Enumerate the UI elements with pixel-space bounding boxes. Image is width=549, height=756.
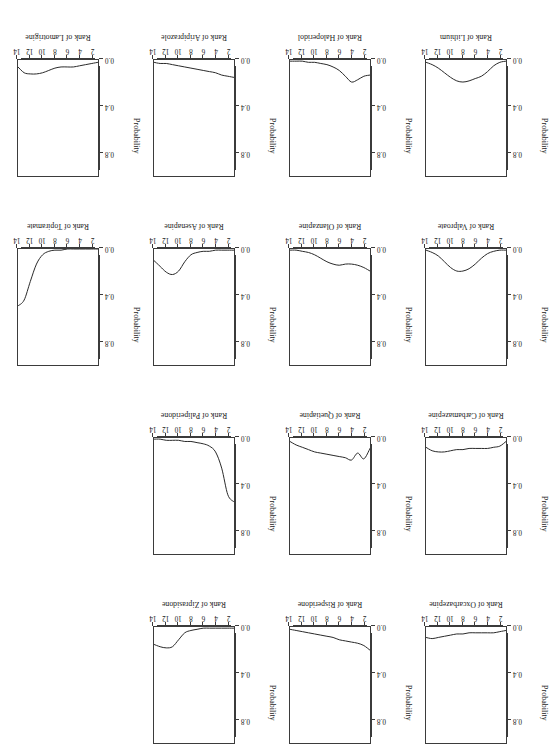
x-tick-label: 10 bbox=[175, 614, 182, 621]
x-tick-label: 12 bbox=[434, 614, 441, 621]
x-axis-line bbox=[429, 625, 503, 626]
x-tick-label: 14 bbox=[285, 47, 292, 54]
x-tick-label: 4 bbox=[214, 47, 218, 54]
x-tick-label: 12 bbox=[434, 236, 441, 243]
probability-curve-svg bbox=[290, 60, 370, 176]
x-axis-title: Rank of Aripiprazole bbox=[153, 33, 235, 42]
x-tick-label: 4 bbox=[214, 236, 218, 243]
x-tick bbox=[202, 244, 203, 248]
x-tick-label: 6 bbox=[202, 47, 206, 54]
x-tick-label: 12 bbox=[298, 47, 305, 54]
plot-area bbox=[289, 248, 371, 366]
x-axis: 2468101214 bbox=[425, 427, 507, 437]
x-tick-label: 4 bbox=[350, 236, 354, 243]
x-tick-label: 2 bbox=[363, 425, 367, 432]
x-tick bbox=[54, 55, 55, 59]
x-tick-label: 12 bbox=[434, 47, 441, 54]
y-tick-label: 0.4 bbox=[105, 292, 114, 299]
y-tick-label: 0.4 bbox=[513, 292, 522, 299]
panel-aripiprazole: 0.00.40.8Probability2468101214Rank of Ar… bbox=[137, 0, 273, 189]
y-tick bbox=[371, 719, 375, 720]
y-axis-line bbox=[99, 255, 100, 359]
x-tick bbox=[326, 622, 327, 626]
x-tick bbox=[449, 244, 450, 248]
y-axis-line bbox=[235, 66, 236, 170]
x-tick-label: 6 bbox=[474, 47, 478, 54]
x-tick-label: 4 bbox=[486, 236, 490, 243]
x-tick bbox=[351, 244, 352, 248]
y-tick bbox=[371, 483, 375, 484]
x-tick-label: 6 bbox=[338, 47, 342, 54]
y-tick bbox=[507, 105, 511, 106]
y-tick-label: 0.4 bbox=[377, 103, 386, 110]
panel-risperidone: 0.00.40.8Probability2468101214Rank of Ri… bbox=[273, 567, 409, 756]
y-tick bbox=[371, 247, 375, 248]
y-tick bbox=[507, 294, 511, 295]
x-axis-title: Rank of Carbamazepine bbox=[425, 411, 507, 420]
y-axis: 0.00.40.8 bbox=[235, 626, 243, 744]
x-tick-label: 10 bbox=[175, 47, 182, 54]
y-tick-label: 0.4 bbox=[513, 670, 522, 677]
probability-curve bbox=[154, 250, 234, 274]
x-tick-label: 2 bbox=[227, 614, 231, 621]
y-axis-title: Probability bbox=[404, 307, 413, 343]
y-tick bbox=[371, 672, 375, 673]
y-tick bbox=[99, 58, 103, 59]
x-tick-label: 6 bbox=[474, 614, 478, 621]
y-axis-title: Probability bbox=[404, 496, 413, 532]
y-axis-line bbox=[99, 66, 100, 170]
y-tick bbox=[507, 530, 511, 531]
x-tick-label: 2 bbox=[91, 47, 95, 54]
x-tick bbox=[500, 55, 501, 59]
x-axis-title: Rank of Lamotrigine bbox=[17, 33, 99, 42]
x-tick-label: 6 bbox=[474, 425, 478, 432]
x-tick-label: 14 bbox=[421, 236, 428, 243]
y-tick-label: 0.4 bbox=[105, 103, 114, 110]
x-tick bbox=[66, 244, 67, 248]
x-tick bbox=[79, 244, 80, 248]
y-tick-label: 0.8 bbox=[513, 717, 522, 724]
x-axis-line bbox=[429, 436, 503, 437]
y-tick bbox=[507, 341, 511, 342]
y-axis-title: Probability bbox=[268, 685, 277, 721]
y-tick-label: 0.8 bbox=[513, 150, 522, 157]
x-tick-label: 4 bbox=[350, 425, 354, 432]
x-tick bbox=[202, 55, 203, 59]
y-tick-label: 0.0 bbox=[377, 55, 386, 62]
x-tick bbox=[437, 622, 438, 626]
y-tick-label: 0.8 bbox=[241, 150, 250, 157]
x-tick-label: 14 bbox=[149, 614, 156, 621]
x-axis-line bbox=[293, 247, 367, 248]
probability-curve-svg bbox=[154, 249, 234, 365]
x-tick bbox=[313, 622, 314, 626]
x-axis: 2468101214 bbox=[153, 238, 235, 248]
x-tick-label: 8 bbox=[53, 47, 57, 54]
x-tick-label: 10 bbox=[447, 614, 454, 621]
probability-curve bbox=[426, 441, 506, 452]
probability-curve-svg bbox=[426, 438, 506, 554]
x-tick bbox=[152, 244, 153, 248]
y-tick bbox=[99, 294, 103, 295]
x-tick bbox=[487, 244, 488, 248]
x-tick bbox=[487, 622, 488, 626]
x-tick bbox=[437, 433, 438, 437]
x-tick-label: 8 bbox=[189, 47, 193, 54]
x-axis-title: Rank of Risperidone bbox=[289, 600, 371, 609]
x-axis-line bbox=[21, 247, 95, 248]
x-tick-label: 2 bbox=[499, 614, 503, 621]
y-axis-line bbox=[235, 633, 236, 737]
x-tick bbox=[338, 55, 339, 59]
y-tick bbox=[371, 105, 375, 106]
y-tick-label: 0.4 bbox=[241, 103, 250, 110]
y-tick bbox=[235, 341, 239, 342]
x-tick bbox=[326, 55, 327, 59]
x-tick-label: 10 bbox=[39, 236, 46, 243]
probability-curve-svg bbox=[154, 60, 234, 176]
x-tick-label: 4 bbox=[486, 47, 490, 54]
x-tick bbox=[92, 244, 93, 248]
y-axis-title: Probability bbox=[404, 685, 413, 721]
x-tick bbox=[313, 433, 314, 437]
x-tick bbox=[92, 55, 93, 59]
x-tick bbox=[326, 244, 327, 248]
